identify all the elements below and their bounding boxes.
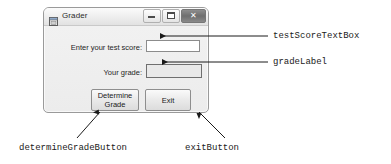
minimize-button[interactable] [143, 9, 161, 23]
maximize-button[interactable] [162, 9, 180, 23]
grader-form-window: Grader ✕ Enter your test score: Your gra… [43, 7, 209, 113]
determine-grade-button-label: Determine Grade [98, 91, 133, 109]
window-title: Grader [62, 11, 88, 21]
test-score-textbox[interactable] [146, 40, 200, 52]
form-designer-icon [49, 12, 58, 21]
minimize-icon [148, 16, 155, 18]
exit-button-label: Exit [162, 96, 175, 105]
test-score-caption: Enter your test score: [58, 43, 142, 52]
exit-button[interactable]: Exit [145, 89, 191, 111]
determine-grade-button[interactable]: Determine Grade [91, 89, 139, 111]
window-controls: ✕ [143, 9, 206, 23]
annotation-grade-label: gradeLabel [273, 57, 327, 67]
your-grade-caption: Your grade: [58, 68, 142, 77]
annotation-determine-grade-button: determineGradeButton [19, 143, 127, 153]
annotation-test-score-textbox: testScoreTextBox [273, 31, 359, 41]
form-body: Enter your test score: Your grade: Deter… [44, 26, 208, 112]
maximize-icon [167, 12, 175, 19]
grade-label [146, 64, 202, 78]
close-icon: ✕ [182, 11, 205, 21]
close-button[interactable]: ✕ [181, 9, 206, 23]
annotation-exit-button: exitButton [185, 143, 239, 153]
window-titlebar[interactable]: Grader ✕ [44, 8, 208, 26]
